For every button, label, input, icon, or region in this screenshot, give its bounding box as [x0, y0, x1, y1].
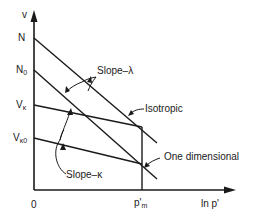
- slope-kappa-label: Slope–κ: [66, 170, 102, 180]
- tick-Vk0: Vκ0: [13, 133, 27, 144]
- tick-Vk0-main: V: [13, 132, 20, 143]
- tick-Vk0-sub: κ0: [20, 137, 27, 144]
- isotropic-label: Isotropic: [145, 104, 183, 114]
- slope-lambda-label: Slope–λ: [97, 66, 133, 76]
- origin-label: 0: [31, 200, 37, 210]
- y-axis-label: v: [22, 10, 27, 20]
- tick-Vk: Vκ: [16, 100, 26, 111]
- tick-N0-sub: 0: [23, 69, 27, 76]
- tick-N0: N0: [16, 65, 27, 76]
- isotropic-arrow-icon: [128, 110, 134, 116]
- slope-kappa-leader: [56, 112, 70, 174]
- x-axis-arrow-icon: [224, 187, 236, 194]
- tick-Vk-sub: κ: [23, 104, 27, 111]
- slope-lambda-leader: [66, 77, 96, 92]
- diagram-svg: [0, 0, 258, 222]
- diagram-canvas: v ln p' 0 N N0 Vκ Vκ0 p'm Slope–λ Slope–…: [0, 0, 258, 222]
- x-axis-label: ln p': [201, 199, 219, 209]
- tick-Vk-main: V: [16, 99, 23, 110]
- isotropic-ncl: [34, 38, 157, 143]
- tick-pm-sub: m: [141, 202, 147, 209]
- y-axis-arrow-icon: [31, 10, 38, 22]
- tick-N: N: [18, 33, 25, 43]
- one-dimensional-label: One dimensional: [164, 152, 239, 162]
- tick-pm: p'm: [134, 198, 147, 209]
